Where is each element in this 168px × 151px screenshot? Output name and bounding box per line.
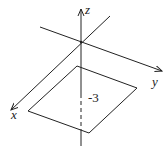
plane-z-minus-3 — [28, 66, 137, 133]
axes-diagram: z y x -3 — [0, 0, 168, 151]
plane-height-label: -3 — [88, 90, 99, 105]
y-axis-label: y — [150, 74, 158, 89]
x-axis-label: x — [10, 107, 17, 122]
origin-point — [80, 41, 82, 43]
z-axis-label: z — [84, 2, 90, 17]
